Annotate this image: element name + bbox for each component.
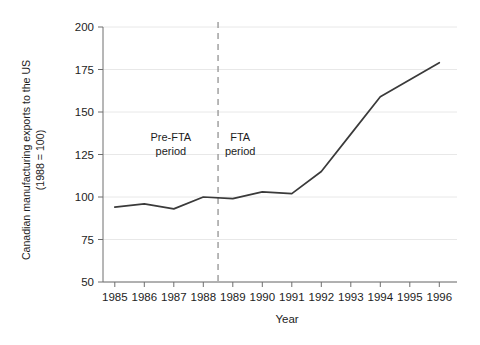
x-tick-label: 1989 — [220, 291, 246, 303]
x-tick-label: 1986 — [132, 291, 158, 303]
annotation-label-line2: period — [156, 145, 187, 157]
y-axis-title-line2: (1988 = 100) — [34, 130, 46, 190]
annotation-label-line2: period — [225, 145, 256, 157]
annotation-label-line1: Pre-FTA — [150, 131, 191, 143]
y-tick-label: 150 — [75, 106, 94, 118]
y-tick-label: 175 — [75, 64, 94, 76]
y-tick-label: 200 — [75, 21, 94, 33]
y-tick-label: 100 — [75, 191, 94, 203]
x-tick-label: 1987 — [161, 291, 187, 303]
y-tick-label: 50 — [81, 276, 94, 288]
y-tick-label: 125 — [75, 149, 94, 161]
y-axis-title-line1: Canadian manufacturing exports to the US — [20, 60, 32, 260]
x-tick-label: 1995 — [397, 291, 423, 303]
x-axis-title: Year — [275, 313, 298, 325]
x-tick-label: 1992 — [309, 291, 335, 303]
x-tick-label: 1990 — [250, 291, 276, 303]
annotation-label-line1: FTA — [230, 131, 251, 143]
x-tick-label: 1991 — [279, 291, 305, 303]
x-tick-label: 1993 — [338, 291, 364, 303]
line-chart: 5075100125150175200 19851986198719881989… — [0, 0, 480, 345]
x-tick-label: 1985 — [102, 291, 128, 303]
x-tick-label: 1996 — [427, 291, 453, 303]
x-tick-label: 1988 — [191, 291, 217, 303]
chart-figure: 5075100125150175200 19851986198719881989… — [0, 0, 480, 345]
y-tick-label: 75 — [81, 234, 94, 246]
x-tick-label: 1994 — [368, 291, 394, 303]
